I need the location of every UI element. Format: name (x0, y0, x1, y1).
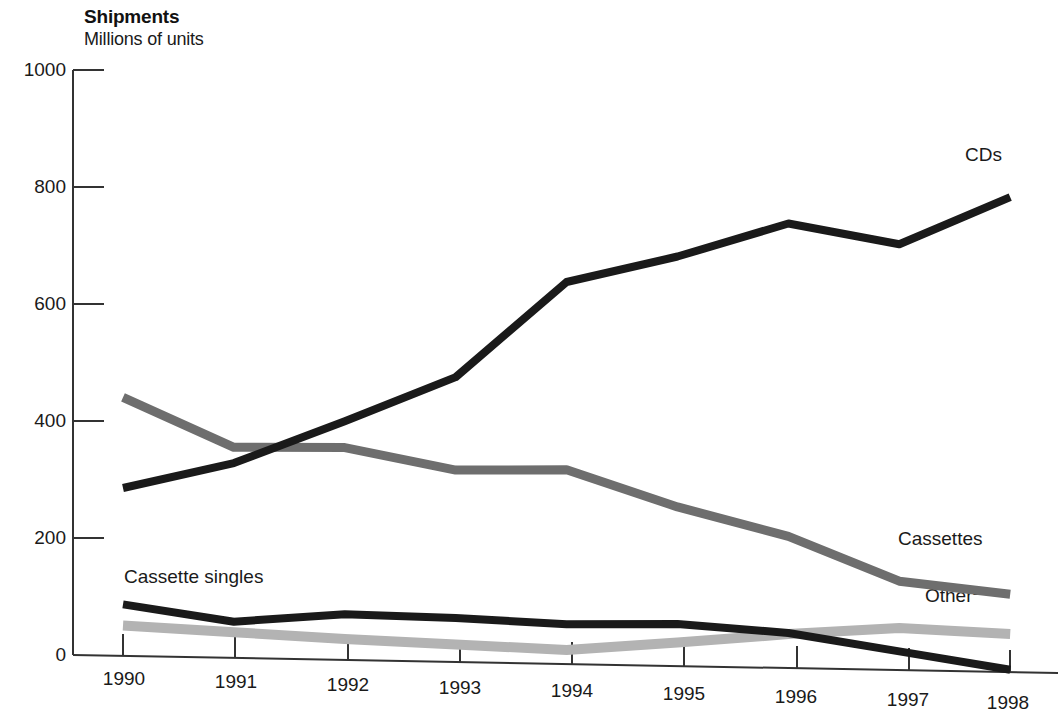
series-line-cassettes (123, 397, 1010, 594)
y-axis-ticks (73, 70, 104, 538)
x-axis-line (73, 655, 1058, 673)
chart-container: Shipments Millions of units 1000 800 600… (0, 0, 1058, 718)
plot-area (0, 0, 1058, 718)
